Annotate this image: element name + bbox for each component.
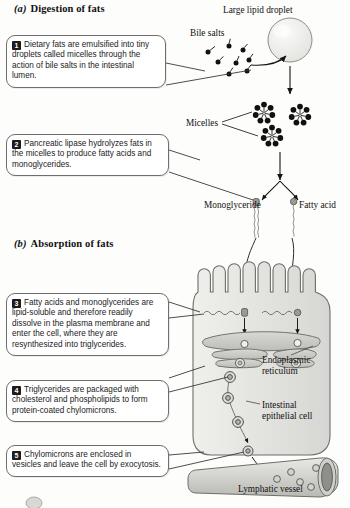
label-endoplasmic-reticulum: Endoplasmic reticulum [262, 355, 324, 376]
label-lymphatic-vessel: Lymphatic vessel [238, 484, 303, 495]
section-letter-a: (a) [14, 3, 27, 14]
step-text-4: Triglycerides are packaged with choleste… [12, 385, 148, 415]
figure-page: (a)Digestion of fats (b)Absorption of fa… [0, 0, 350, 508]
step-callout-3: 3Fatty acids and monoglycerides are lipi… [6, 293, 169, 356]
step-callout-1: 1Dietary fats are emulsified into tiny d… [6, 35, 166, 88]
label-large-lipid-droplet: Large lipid droplet [223, 5, 293, 16]
step-text-1: Dietary fats are emulsified into tiny dr… [12, 40, 149, 80]
large-lipid-droplet [268, 18, 312, 62]
step-text-5: Chylomicrons are enclosed in vesicles an… [12, 450, 161, 469]
step-callout-4: 4Triglycerides are packaged with cholest… [6, 380, 169, 422]
step-text-2: Pancreatic lipase hydrolyzes fats in the… [12, 139, 152, 169]
step-text-3: Fatty acids and monoglycerides are lipid… [12, 298, 153, 349]
section-letter-b: (b) [14, 238, 27, 249]
product-split-arrows [262, 181, 298, 200]
step-number-badge-4: 4 [12, 386, 21, 395]
step-number-badge-1: 1 [12, 41, 21, 50]
micelles-leader-lines [222, 112, 258, 136]
micelle-cluster [253, 102, 311, 147]
section-heading-absorption: (b)Absorption of fats [14, 238, 113, 249]
step-number-badge-5: 5 [12, 451, 21, 460]
label-micelles: Micelles [186, 118, 218, 129]
label-monoglyceride: Monoglyceride [204, 200, 261, 211]
section-title-b: Absorption of fats [31, 238, 114, 249]
step-callout-5: 5Chylomicrons are enclosed in vesicles a… [6, 445, 169, 477]
label-bile-salts: Bile salts [190, 28, 224, 39]
fatty-acid-molecule [290, 198, 296, 236]
label-fatty-acid: Fatty acid [299, 200, 336, 211]
section-title-a: Digestion of fats [31, 3, 105, 14]
label-intestinal-epithelial-cell: Intestinal epithelial cell [262, 400, 328, 421]
step-callout-2: 2Pancreatic lipase hydrolyzes fats in th… [6, 134, 169, 176]
section-heading-digestion: (a)Digestion of fats [14, 3, 105, 14]
step-number-badge-3: 3 [12, 299, 21, 308]
step-number-badge-2: 2 [12, 140, 21, 149]
page-edge-artifact [26, 497, 42, 508]
